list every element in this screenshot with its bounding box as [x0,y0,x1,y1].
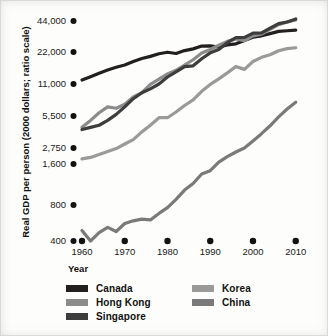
legend-item-hong-kong[interactable]: Hong Kong [66,297,192,308]
legend-swatch-icon [66,313,88,320]
y-tick-label-22000: 22,000 [37,46,66,57]
y-axis-title: Real GDP per person (2000 dollars; ratio… [20,26,31,238]
x-tick-label-1980: 1980 [157,246,178,257]
x-tick-label-1990: 1990 [200,246,221,257]
series-lines [82,19,296,241]
y-axis-tick-dots [71,18,77,244]
x-tick-dot-1980 [164,238,170,244]
y-tick-dot [71,113,77,119]
figure-panel: Real GDP per person (2000 dollars; ratio… [0,0,328,336]
y-tick-dot [71,145,77,151]
x-tick-dot-1990 [207,238,213,244]
y-tick-label-11000: 11,000 [38,78,66,89]
legend-column-2: KoreaChina [192,283,251,322]
chart-legend: CanadaHong KongSingaporeKoreaChina [66,283,316,322]
y-tick-dot [71,238,77,244]
legend-label: Singapore [96,311,146,322]
y-tick-dot [71,202,77,208]
y-tick-label-800: 800 [50,199,66,210]
x-tick-label-1960: 1960 [71,246,92,257]
legend-label: China [222,297,250,308]
y-tick-label-400: 400 [50,235,66,246]
y-tick-label-1600: 1,600 [42,158,66,169]
y-tick-dot [71,81,77,87]
y-tick-label-44000: 44,000 [37,15,66,26]
legend-item-singapore[interactable]: Singapore [66,311,192,322]
x-axis-title: Year [68,263,88,274]
y-tick-dot [71,18,77,24]
x-tick-label-1970: 1970 [114,246,135,257]
series-line-china [82,102,296,241]
x-tick-label-2010: 2010 [285,246,306,257]
legend-column-1: CanadaHong KongSingapore [66,283,192,322]
y-axis-tick-labels: 4008001,6002,7505,50011,00022,00044,000 [37,15,66,246]
x-tick-dot-2000 [250,238,256,244]
series-line-korea [82,48,296,159]
y-tick-label-2750: 2,750 [42,142,66,153]
legend-label: Korea [222,283,251,294]
legend-swatch-icon [66,285,88,292]
legend-swatch-icon [192,299,214,306]
x-tick-label-2000: 2000 [242,246,263,257]
legend-swatch-icon [66,299,88,306]
legend-item-korea[interactable]: Korea [192,283,251,294]
x-tick-dot-1970 [122,238,128,244]
y-tick-label-5500: 5,500 [42,110,66,121]
legend-item-china[interactable]: China [192,297,251,308]
y-tick-dot [71,161,77,167]
y-tick-dot [71,49,77,55]
legend-swatch-icon [192,285,214,292]
legend-label: Hong Kong [96,297,151,308]
x-axis-tick-labels: 196019701980199020002010 [71,246,306,257]
x-tick-dot-2010 [293,238,299,244]
x-tick-dot-1960 [79,238,85,244]
legend-item-canada[interactable]: Canada [66,283,192,294]
legend-label: Canada [96,283,133,294]
x-axis-tick-dots [79,238,299,244]
